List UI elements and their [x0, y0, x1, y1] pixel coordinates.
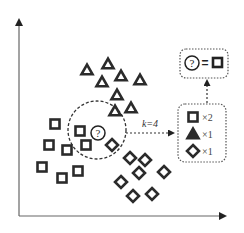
triangle-point — [97, 77, 108, 87]
square-point — [74, 167, 83, 176]
query-point: ? — [91, 126, 105, 140]
diagram-canvas: ? k=4 ? = ×2×1×1 — [0, 0, 244, 233]
diamond-point — [139, 154, 151, 166]
triangle-point — [112, 90, 123, 100]
votes-box: ×2×1×1 — [178, 104, 226, 162]
diamond-point — [124, 152, 136, 164]
diamond-point — [133, 167, 145, 179]
vote-square-count: ×2 — [202, 112, 213, 123]
triangle-point — [110, 106, 121, 116]
triangle-point — [135, 75, 146, 85]
square-point — [76, 127, 85, 136]
triangle-point — [126, 103, 137, 113]
square-point — [45, 141, 54, 150]
square-point — [58, 174, 67, 183]
vote-triangle-count: ×1 — [202, 129, 213, 140]
result-box: ? = — [180, 49, 228, 78]
diamond-point — [158, 166, 170, 178]
triangle-point — [82, 65, 93, 75]
query-label: ? — [96, 127, 101, 139]
k-arrow: k=4 — [126, 118, 173, 133]
k-label: k=4 — [142, 118, 158, 129]
diamond-point — [115, 176, 127, 188]
knn-diagram: ? k=4 ? = ×2×1×1 — [0, 0, 244, 233]
triangle-point — [116, 71, 127, 81]
diamond-point — [127, 190, 139, 202]
result-query-label: ? — [190, 57, 195, 69]
vote-diamond-count: ×1 — [202, 146, 213, 157]
result-equals: = — [201, 56, 208, 70]
square-point — [38, 163, 47, 172]
square-point — [82, 141, 91, 150]
diamond-point — [106, 139, 118, 151]
triangle-point — [103, 59, 114, 69]
diamond-point — [146, 188, 158, 200]
square-point — [63, 146, 72, 155]
square-point — [51, 120, 60, 129]
